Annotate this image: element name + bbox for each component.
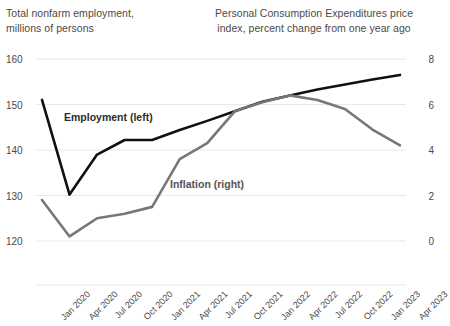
right-axis-tick-label: 8 <box>428 54 434 65</box>
left-axis-tick-label: 130 <box>6 190 23 201</box>
series-lines <box>42 75 400 237</box>
series-label-employment: Employment (left) <box>64 111 153 123</box>
left-axis-tick-label: 120 <box>6 236 23 247</box>
right-axis-tick-label: 0 <box>428 236 434 247</box>
right-axis-tick-label: 4 <box>428 145 434 156</box>
series-label-inflation: Inflation (right) <box>170 178 244 190</box>
series-line-employment <box>42 75 400 195</box>
gridlines <box>36 59 406 285</box>
left-axis-tick-label: 140 <box>6 145 23 156</box>
right-axis-tick-label: 2 <box>428 190 434 201</box>
left-axis-tick-label: 150 <box>6 99 23 110</box>
left-axis-tick-label: 160 <box>6 54 23 65</box>
right-axis-tick-label: 6 <box>428 99 434 110</box>
